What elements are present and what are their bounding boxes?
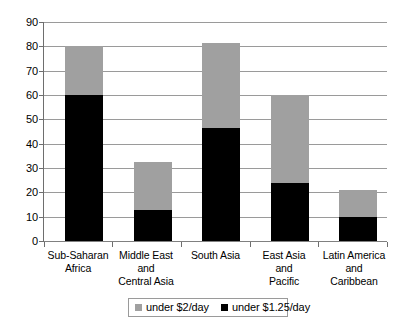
legend-label: under $2/day [146, 301, 209, 314]
bar-segment-under-2-day [202, 43, 240, 128]
bar-segment-under-125-day [65, 95, 103, 241]
bar-sub-saharan-africa [65, 46, 103, 241]
x-axis-tick [44, 242, 45, 247]
bar-latin-america-and-caribbean [339, 190, 377, 241]
y-tick-label: 30 [4, 163, 38, 174]
chart-legend: under $2/day under $1.25/day [128, 298, 288, 317]
legend-item-under-125-day: under $1.25/day [221, 301, 310, 314]
gridline-0 [44, 241, 387, 242]
gray-square-swatch-icon [135, 304, 142, 311]
legend-item-under-2-day: under $2/day [135, 301, 209, 314]
y-tick-label: 0 [4, 236, 38, 247]
black-square-swatch-icon [221, 304, 228, 311]
poverty-stacked-bar-chart: 90 80 70 60 50 40 30 20 10 0 [0, 0, 396, 324]
x-axis-tick [318, 242, 319, 247]
gridline-90 [44, 22, 387, 23]
x-axis-tick [250, 242, 251, 247]
y-tick-label: 40 [4, 139, 38, 150]
bar-segment-under-2-day [134, 162, 172, 210]
bar-segment-under-125-day [134, 210, 172, 241]
y-tick-label: 50 [4, 114, 38, 125]
bar-segment-under-2-day [65, 46, 103, 95]
y-tick-label: 80 [4, 41, 38, 52]
bar-south-asia [202, 43, 240, 241]
x-axis-tick [112, 242, 113, 247]
plot-area [44, 22, 387, 241]
bar-segment-under-125-day [339, 217, 377, 241]
bar-segment-under-125-day [271, 183, 309, 241]
y-tick-label: 10 [4, 212, 38, 223]
y-tick-label: 90 [4, 17, 38, 28]
y-tick-label: 20 [4, 187, 38, 198]
y-axis-labels: 90 80 70 60 50 40 30 20 10 0 [0, 0, 38, 260]
bar-segment-under-2-day [339, 190, 377, 217]
x-axis-tick [387, 242, 388, 247]
y-tick-label: 70 [4, 66, 38, 77]
x-category-label-east-asia-and-pacific: East Asia and Pacific [250, 249, 318, 288]
x-category-label-sub-saharan-africa: Sub-Saharan Africa [44, 249, 112, 275]
x-category-label-latin-america-and-caribbean: Latin America and Caribbean [316, 249, 392, 288]
x-category-label-south-asia: South Asia [181, 249, 250, 262]
bar-east-asia-and-pacific [271, 95, 309, 241]
bar-middle-east-and-central-asia [134, 162, 172, 241]
bar-segment-under-125-day [202, 128, 240, 241]
legend-label: under $1.25/day [232, 301, 310, 314]
y-tick-label: 60 [4, 90, 38, 101]
x-category-label-middle-east-and-central-asia: Middle East and Central Asia [111, 249, 181, 288]
bar-segment-under-2-day [271, 95, 309, 183]
x-axis-tick [181, 242, 182, 247]
